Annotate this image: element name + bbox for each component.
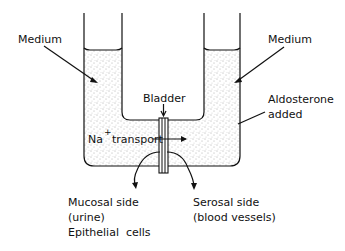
label-blood-vessels: (blood vessels) (193, 211, 276, 224)
label-bladder: Bladder (143, 92, 186, 105)
label-epithelial-cells: Epithelial cells (68, 226, 151, 239)
aldosterone-leader (238, 112, 265, 124)
meniscus-left (84, 48, 122, 50)
label-na-superscript: + (104, 127, 112, 137)
label-mucosal-side: Mucosal side (68, 196, 139, 209)
serosal-arrow-icon (191, 183, 197, 190)
label-aldosterone: Aldosterone (268, 93, 334, 106)
label-medium-left: Medium (18, 33, 62, 46)
label-urine: (urine) (68, 211, 105, 224)
meniscus-right (204, 48, 240, 50)
label-transport: transport (112, 133, 164, 146)
label-serosal-side: Serosal side (193, 196, 260, 209)
diagram-canvas: Medium Medium Bladder Aldosterone added … (0, 0, 345, 251)
label-aldosterone-added: added (268, 108, 302, 121)
label-na: Na (88, 133, 103, 146)
label-medium-right: Medium (268, 33, 312, 46)
bladder-arrow-icon (161, 104, 166, 116)
mucosal-arrow-icon (132, 182, 138, 189)
medium-right-leader (236, 47, 284, 82)
